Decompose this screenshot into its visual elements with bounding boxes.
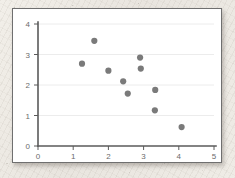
data-point	[91, 38, 97, 44]
x-tick-label-4: 4	[177, 152, 182, 161]
x-tick-label-1: 1	[71, 152, 76, 161]
x-tick-label-3: 3	[141, 152, 146, 161]
y-tick-label-1: 1	[26, 112, 31, 121]
y-tick-label-3: 3	[26, 51, 31, 60]
y-axis-tick-labels: 01234	[26, 20, 31, 151]
data-point	[152, 87, 158, 93]
gridlines-group	[38, 24, 214, 116]
data-point	[120, 78, 126, 84]
x-tick-label-5: 5	[212, 152, 217, 161]
x-axis-tick-labels: 012345	[36, 152, 217, 161]
data-point	[179, 124, 185, 130]
scatter-plot-card: 012345 01234	[12, 8, 222, 163]
y-tick-label-2: 2	[26, 81, 31, 90]
data-points-group	[79, 38, 185, 131]
data-point	[137, 54, 143, 60]
y-tick-label-4: 4	[26, 20, 31, 29]
data-point	[138, 65, 144, 71]
data-point	[125, 90, 131, 96]
y-tick-label-0: 0	[26, 142, 31, 151]
data-point	[79, 61, 85, 67]
x-tick-label-2: 2	[106, 152, 111, 161]
scatter-plot: 012345 01234	[13, 9, 222, 163]
axes-group	[38, 22, 216, 146]
x-tick-label-0: 0	[36, 152, 41, 161]
data-point	[105, 68, 111, 74]
data-point	[152, 107, 158, 113]
